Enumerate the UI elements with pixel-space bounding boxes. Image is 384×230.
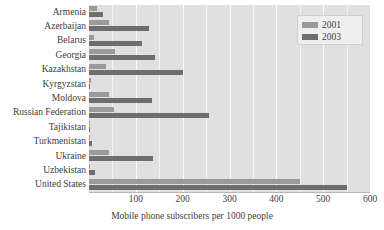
category-label-tajikistan: Tajikistan xyxy=(0,122,86,132)
legend-swatch-icon-2003 xyxy=(302,34,318,40)
x-tick-label-200: 200 xyxy=(163,194,203,205)
category-axis-labels: ArmeniaAzerbaijanBelarusGeorgiaKazakhsta… xyxy=(0,5,86,192)
category-label-ukraine: Ukraine xyxy=(0,151,86,161)
x-axis-title: Mobile phone subscribers per 1000 people xyxy=(0,211,384,221)
legend-item-2001: 2001 xyxy=(302,19,358,31)
bar-group xyxy=(89,48,370,62)
bar-kyrgyzstan-2003 xyxy=(89,84,90,89)
bar-group xyxy=(89,163,370,177)
bar-russian-federation-2001 xyxy=(89,107,114,112)
bar-georgia-2001 xyxy=(89,49,115,54)
category-label-uzbekistan: Uzbekistan xyxy=(0,165,86,175)
bar-russian-federation-2003 xyxy=(89,113,209,118)
bar-georgia-2003 xyxy=(89,55,155,60)
x-tick-label-600: 600 xyxy=(350,194,384,205)
category-label-turkmenistan: Turkmenistan xyxy=(0,136,86,146)
bar-tajikistan-2003 xyxy=(89,127,90,132)
category-label-armenia: Armenia xyxy=(0,7,86,17)
x-tick-label-100: 100 xyxy=(116,194,156,205)
bar-chart: ArmeniaAzerbaijanBelarusGeorgiaKazakhsta… xyxy=(0,0,384,230)
x-tick-label-400: 400 xyxy=(256,194,296,205)
bar-group xyxy=(89,134,370,148)
bar-ukraine-2001 xyxy=(89,150,109,155)
x-axis-line xyxy=(89,192,370,193)
category-label-moldova: Moldova xyxy=(0,93,86,103)
legend: 2001 2003 xyxy=(297,15,363,45)
bar-kyrgyzstan-2001 xyxy=(89,78,91,83)
bar-armenia-2003 xyxy=(89,12,103,17)
bar-azerbaijan-2003 xyxy=(89,26,149,31)
bar-group xyxy=(89,178,370,192)
bar-azerbaijan-2001 xyxy=(89,20,109,25)
legend-swatch-icon-2001 xyxy=(302,22,318,28)
bar-turkmenistan-2001 xyxy=(89,135,90,140)
category-label-georgia: Georgia xyxy=(0,50,86,60)
bar-group xyxy=(89,149,370,163)
bar-moldova-2001 xyxy=(89,92,109,97)
x-tick-label-300: 300 xyxy=(210,194,250,205)
bar-united-states-2003 xyxy=(89,185,347,190)
legend-label-2003: 2003 xyxy=(322,32,341,42)
legend-item-2003: 2003 xyxy=(302,31,358,43)
bar-belarus-2001 xyxy=(89,35,94,40)
bar-moldova-2003 xyxy=(89,98,152,103)
category-label-azerbaijan: Azerbaijan xyxy=(0,21,86,31)
bar-group xyxy=(89,91,370,105)
x-tick-label-500: 500 xyxy=(303,194,343,205)
bar-group xyxy=(89,63,370,77)
bar-united-states-2001 xyxy=(89,179,300,184)
bar-kazakhstan-2003 xyxy=(89,70,183,75)
legend-label-2001: 2001 xyxy=(322,20,341,30)
category-label-russian-federation: Russian Federation xyxy=(0,107,86,117)
bar-tajikistan-2001 xyxy=(89,121,90,126)
bar-armenia-2001 xyxy=(89,6,97,11)
bar-uzbekistan-2001 xyxy=(89,164,90,169)
bar-uzbekistan-2003 xyxy=(89,170,95,175)
bar-group xyxy=(89,106,370,120)
category-label-united-states: United States xyxy=(0,179,86,189)
bar-turkmenistan-2003 xyxy=(89,141,92,146)
category-label-kazakhstan: Kazakhstan xyxy=(0,64,86,74)
category-label-kyrgyzstan: Kyrgyzstan xyxy=(0,79,86,89)
bar-group xyxy=(89,77,370,91)
bar-ukraine-2003 xyxy=(89,156,153,161)
bar-belarus-2003 xyxy=(89,41,142,46)
bar-kazakhstan-2001 xyxy=(89,64,106,69)
category-label-belarus: Belarus xyxy=(0,35,86,45)
bar-group xyxy=(89,120,370,134)
